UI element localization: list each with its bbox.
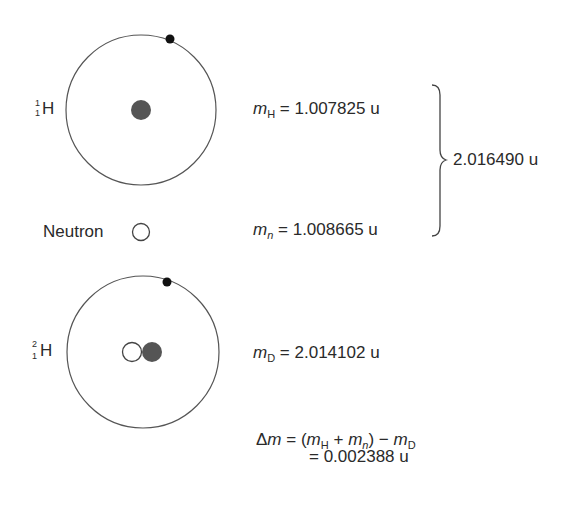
atomic-number: 1 <box>32 352 37 361</box>
deuterium-mass-equation: mD = 2.014102 u <box>253 343 380 364</box>
deuterium-electron-icon <box>163 278 172 287</box>
element-symbol: H <box>40 341 52 361</box>
hydrogen-proton-icon <box>131 100 151 120</box>
hydrogen-mass-equation: mH = 1.007825 u <box>253 99 380 120</box>
hydrogen-electron-icon <box>166 35 175 44</box>
sum-brace <box>432 85 446 236</box>
mass-number: 1 <box>35 99 40 108</box>
neutron-mass-equation: mn = 1.008665 u <box>253 220 378 241</box>
mass-defect-result: = 0.002388 u <box>309 447 409 467</box>
mass-number: 2 <box>32 340 37 349</box>
element-symbol: H <box>42 99 54 119</box>
sum-value: 2.016490 u <box>453 150 538 170</box>
deuterium-proton-icon <box>142 342 162 362</box>
neutron-icon <box>133 224 150 241</box>
neutron-label: Neutron <box>43 222 103 242</box>
deuterium-neutron-icon <box>123 343 142 362</box>
atomic-number: 1 <box>35 109 40 118</box>
